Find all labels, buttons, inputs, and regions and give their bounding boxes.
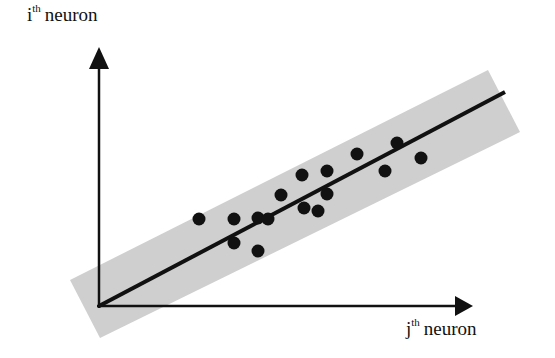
x-axis-label: jthneuron [406,318,477,340]
data-point [252,245,265,258]
data-point [379,165,392,178]
data-point [415,152,428,165]
data-point [228,213,241,226]
y-axis-label: ithneuron [27,4,98,26]
y-axis-arrow-icon [89,47,109,69]
y-label-sup: th [32,2,41,14]
data-point [228,237,241,250]
data-point [312,205,325,218]
data-point [262,213,275,226]
data-point [275,189,288,202]
data-point [298,202,311,215]
data-point [391,137,404,150]
data-point [296,169,309,182]
regression-line [99,92,505,306]
y-label-text: neuron [45,4,98,25]
data-point [351,148,364,161]
data-point [193,213,206,226]
x-label-text: neuron [424,318,477,339]
x-label-sup: th [411,316,420,328]
data-point [321,188,334,201]
correlation-diagram [0,0,555,358]
x-axis-arrow-icon [455,296,473,316]
data-point [321,165,334,178]
